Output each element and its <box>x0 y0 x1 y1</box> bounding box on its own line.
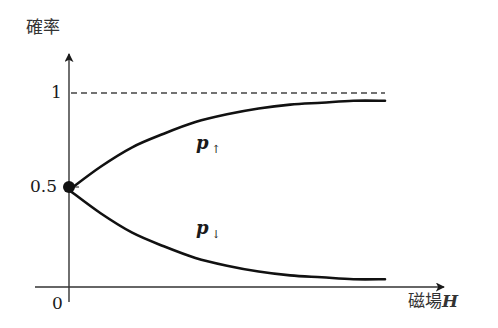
chart-canvas <box>0 0 498 328</box>
series-label-p-down: p↓ <box>196 219 221 240</box>
y-tick-0-5: 0.5 <box>30 178 57 195</box>
curve-p-up <box>69 101 385 190</box>
up-arrow-icon: ↑ <box>212 143 221 156</box>
x-axis-label-variable: H <box>442 291 458 311</box>
p-down-main: p <box>196 217 209 238</box>
p-up-main: p <box>196 132 209 153</box>
y-axis-label: 確率 <box>26 19 60 36</box>
y-tick-1: 1 <box>51 84 62 101</box>
series-label-p-up: p↑ <box>196 134 221 155</box>
x-axis-label-text: 磁場 <box>408 291 442 311</box>
down-arrow-icon: ↓ <box>212 228 221 241</box>
curve-p-down <box>69 190 385 279</box>
origin-label: 0 <box>52 295 63 312</box>
x-axis-label: 磁場H <box>408 293 458 310</box>
